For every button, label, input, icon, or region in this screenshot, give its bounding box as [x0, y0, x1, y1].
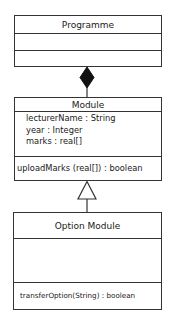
composition-connector [80, 67, 94, 97]
filled-diamond-icon [80, 67, 94, 88]
generalization-connector [78, 182, 96, 213]
hollow-triangle-icon [78, 182, 96, 200]
relationship-connectors [0, 0, 172, 323]
